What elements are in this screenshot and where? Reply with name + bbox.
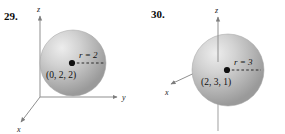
x-axis-label: x <box>16 125 21 134</box>
radius-label: r = 3 <box>234 57 253 67</box>
figure-29: 29. z x y <box>0 0 143 134</box>
center-label: (0, 2, 2) <box>46 70 76 81</box>
figure-30-diagram: x y z r = 3 (2, 3, 1) <box>143 0 285 134</box>
radius-label: r = 2 <box>79 50 98 60</box>
z-axis-label: z <box>214 6 219 15</box>
x-axis <box>21 97 40 122</box>
center-point <box>224 67 230 73</box>
z-axis-label: z <box>36 5 41 14</box>
center-label: (2, 3, 1) <box>201 77 231 88</box>
y-axis-label: y <box>121 93 126 102</box>
x-axis-label: x <box>164 88 169 97</box>
figure-29-diagram: z x y r = 2 (0, 2, 2) <box>0 0 143 134</box>
center-point <box>69 60 75 66</box>
figure-30: 30. x y <box>143 0 285 134</box>
exercise-figure-pair: 29. z x y <box>0 0 285 134</box>
